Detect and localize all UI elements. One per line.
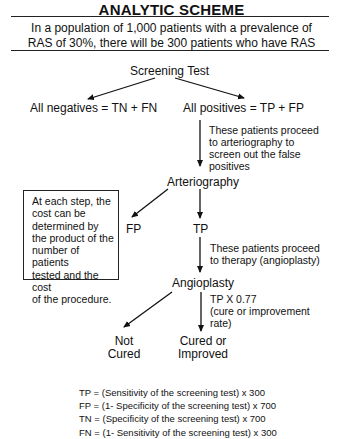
note-cure-rate: TP X 0.77 (cure or improvement rate) bbox=[210, 293, 310, 329]
definitions-list: TP = (Sensitivity of the screening test)… bbox=[79, 386, 277, 439]
definition-fn: FN = (1- Sensitivity of the screening te… bbox=[79, 426, 277, 439]
node-all-negatives: All negatives = TN + FN bbox=[30, 101, 157, 115]
node-tp: TP bbox=[193, 222, 208, 236]
arrow-to-fp bbox=[132, 189, 168, 217]
definition-tp: TP = (Sensitivity of the screening test)… bbox=[79, 386, 277, 399]
note-to-therapy: These patients proceed to therapy (angio… bbox=[210, 242, 320, 266]
arrow-to-negatives bbox=[88, 78, 155, 99]
node-all-positives: All positives = TP + FP bbox=[183, 101, 304, 115]
cost-note-box: At each step, the cost can be determined… bbox=[23, 190, 119, 280]
definition-tn: TN = (Specificity of the screening test)… bbox=[79, 412, 277, 425]
node-cured-or-improved: Cured or Improved bbox=[176, 335, 230, 361]
node-screening-test: Screening Test bbox=[130, 64, 209, 78]
definition-fp: FP = (1- Specificity of the screening te… bbox=[79, 399, 277, 412]
node-arteriography: Arteriography bbox=[167, 175, 239, 189]
node-not-cured: Not Cured bbox=[104, 335, 144, 361]
arrow-to-positives bbox=[175, 78, 244, 98]
arrow-to-not-cured bbox=[124, 292, 172, 327]
note-to-arteriography: These patients proceed to arteriography … bbox=[209, 124, 319, 172]
node-angioplasty: Angioplasty bbox=[172, 276, 234, 290]
node-fp: FP bbox=[126, 222, 141, 236]
